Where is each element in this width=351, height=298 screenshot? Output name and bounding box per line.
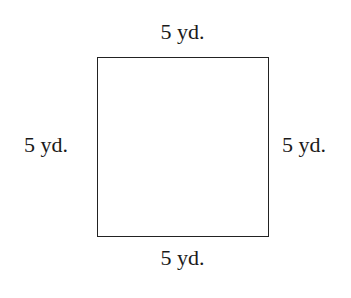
- square-shape: [97, 57, 269, 237]
- top-side-label: 5 yd.: [0, 19, 351, 45]
- bottom-side-label: 5 yd.: [0, 245, 351, 271]
- right-side-label: 5 yd.: [282, 132, 326, 158]
- left-side-label: 5 yd.: [24, 132, 68, 158]
